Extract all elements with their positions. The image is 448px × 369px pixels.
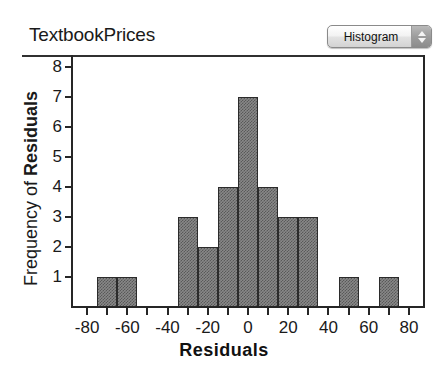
histogram-bar — [379, 277, 399, 307]
x-axis-tick — [267, 308, 269, 315]
x-axis-tick — [187, 308, 189, 315]
histogram-bar — [238, 97, 258, 307]
y-axis-tick-label: 5 — [46, 147, 62, 167]
chevron-up-icon — [418, 31, 426, 36]
histogram-window: TextbookPrices Histogram 12345678 Freque… — [0, 0, 448, 369]
x-axis-tick-label: 80 — [389, 318, 429, 338]
y-axis-title: Frequency of Residuals — [21, 74, 42, 304]
x-axis-tick-label: 60 — [349, 318, 389, 338]
x-axis-tick-label: 40 — [308, 318, 348, 338]
stepper-updown-icon[interactable] — [411, 26, 431, 47]
plot-type-dropdown-label: Histogram — [328, 30, 411, 44]
y-axis-tick — [65, 216, 72, 218]
y-axis-title-bold: Residuals — [21, 91, 41, 176]
histogram-bar — [258, 187, 278, 307]
y-axis-tick-label: 4 — [46, 177, 62, 197]
y-axis-tick — [65, 126, 72, 128]
plot-type-dropdown[interactable]: Histogram — [327, 25, 432, 48]
histogram-bar — [117, 277, 137, 307]
histogram-bar — [298, 217, 318, 307]
x-axis-title: Residuals — [0, 340, 448, 361]
x-axis-tick — [348, 308, 350, 315]
y-axis-tick — [65, 186, 72, 188]
y-axis-tick-label: 3 — [46, 207, 62, 227]
y-axis-tick-label: 6 — [46, 117, 62, 137]
y-axis-tick-label: 2 — [46, 237, 62, 257]
x-axis-tick — [388, 308, 390, 315]
y-axis-tick — [65, 66, 72, 68]
y-axis-tick — [65, 276, 72, 278]
histogram-bar — [198, 247, 218, 307]
histogram-bar — [218, 187, 238, 307]
y-axis-title-plain: Frequency of — [21, 176, 41, 286]
y-axis-tick — [65, 156, 72, 158]
histogram-plot-area — [71, 55, 425, 307]
histogram-bar — [278, 217, 298, 307]
y-axis-ticks: 12345678 — [38, 0, 62, 369]
histogram-bar — [97, 277, 117, 307]
x-axis-tick-label: 20 — [268, 318, 308, 338]
x-axis-tick-label: -60 — [107, 318, 147, 338]
histogram-bar — [178, 217, 198, 307]
x-axis-tick — [86, 308, 88, 315]
x-axis-tick-label: -20 — [188, 318, 228, 338]
x-axis-tick — [106, 308, 108, 315]
x-axis-tick — [368, 308, 370, 315]
x-axis-tick — [126, 308, 128, 315]
x-axis-tick — [327, 308, 329, 315]
x-axis-tick — [167, 308, 169, 315]
x-axis-tick — [227, 308, 229, 315]
x-axis-tick-label: 0 — [228, 318, 268, 338]
x-axis-tick — [207, 308, 209, 315]
x-axis-tick — [408, 308, 410, 315]
histogram-bar — [339, 277, 359, 307]
x-axis-tick — [287, 308, 289, 315]
y-axis-tick-label: 7 — [46, 87, 62, 107]
x-axis-tick — [307, 308, 309, 315]
y-axis-tick-label: 8 — [46, 57, 62, 77]
y-axis-tick-label: 1 — [46, 267, 62, 287]
y-axis-tick — [65, 96, 72, 98]
x-axis-tick-label: -40 — [148, 318, 188, 338]
y-axis-tick — [65, 246, 72, 248]
x-axis-tick — [146, 308, 148, 315]
x-axis-tick — [247, 308, 249, 315]
x-axis-tick-label: -80 — [67, 318, 107, 338]
chevron-down-icon — [418, 38, 426, 43]
